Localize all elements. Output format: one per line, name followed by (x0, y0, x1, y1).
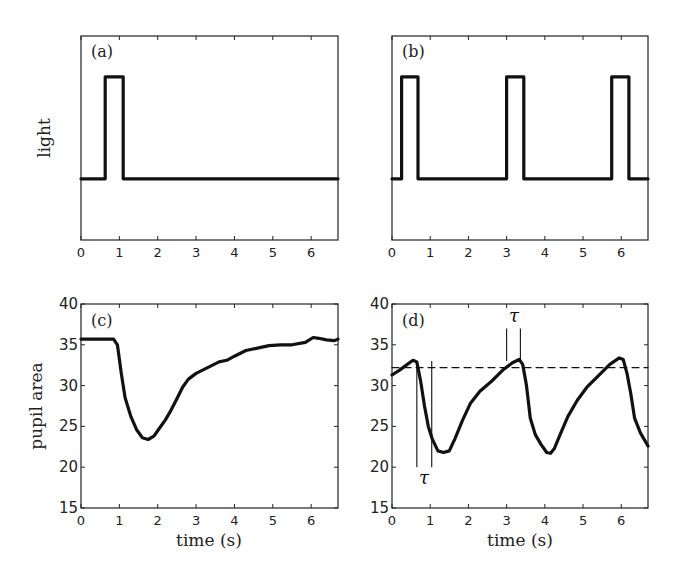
x-tick-label: 3 (192, 245, 200, 260)
y-tick-label: 20 (370, 458, 389, 476)
x-tick-label: 1 (115, 245, 123, 260)
x-tick-label: 6 (617, 245, 625, 260)
x-tick-label: 4 (541, 245, 549, 260)
x-tick-label: 6 (307, 245, 315, 260)
x-tick-label: 1 (115, 513, 123, 528)
x-tick-label: 2 (154, 245, 162, 260)
x-tick-label: 5 (269, 513, 277, 528)
y-tick-label: 15 (370, 499, 389, 517)
y-tick-label: 20 (59, 458, 78, 476)
panel-label-c: (c) (91, 311, 112, 330)
plot-frame (81, 36, 338, 240)
x-tick-label: 3 (502, 245, 510, 260)
x-tick-label: 3 (502, 513, 510, 528)
x-tick-label: 0 (388, 245, 396, 260)
panel-a-light-single-pulse: 0123456 (77, 36, 338, 260)
x-tick-label: 1 (426, 245, 434, 260)
plot-frame (392, 36, 648, 240)
y-tick-label: 25 (370, 417, 389, 435)
x-tick-label: 6 (617, 513, 625, 528)
panel-label-a: (a) (91, 42, 113, 61)
x-axis-label-c: time (s) (176, 530, 242, 550)
x-tick-label: 5 (269, 245, 277, 260)
y-tick-label: 25 (59, 417, 78, 435)
tau-annotation-upper: τ (509, 305, 520, 326)
x-tick-label: 4 (230, 245, 238, 260)
data-line (81, 77, 338, 179)
x-tick-label: 6 (307, 513, 315, 528)
x-tick-label: 1 (426, 513, 434, 528)
x-axis-label-d: time (s) (487, 530, 553, 550)
y-tick-label: 40 (370, 295, 389, 313)
plot-frame (81, 304, 338, 508)
x-tick-label: 5 (579, 245, 587, 260)
y-tick-label: 30 (59, 377, 78, 395)
y-tick-label: 35 (370, 336, 389, 354)
data-line (392, 358, 648, 453)
y-axis-label-light: light (34, 118, 54, 158)
panel-b-light-periodic-pulses: 0123456 (388, 36, 648, 260)
figure: 0123456 0123456 0123456152025303540 0123… (0, 0, 677, 575)
x-tick-label: 3 (192, 513, 200, 528)
y-tick-label: 35 (59, 336, 78, 354)
data-line (81, 338, 338, 440)
panel-label-d: (d) (402, 311, 425, 330)
y-tick-label: 15 (59, 499, 78, 517)
x-tick-label: 2 (154, 513, 162, 528)
x-tick-label: 5 (579, 513, 587, 528)
x-tick-label: 2 (464, 513, 472, 528)
y-axis-label-pupil-area: pupil area (26, 362, 46, 449)
data-line (392, 77, 648, 179)
tau-annotation-lower: τ (419, 467, 430, 488)
x-tick-label: 4 (541, 513, 549, 528)
panel-label-b: (b) (402, 42, 425, 61)
x-tick-label: 2 (464, 245, 472, 260)
y-tick-label: 30 (370, 377, 389, 395)
x-tick-label: 4 (230, 513, 238, 528)
x-tick-label: 0 (77, 245, 85, 260)
x-tick-label: 0 (77, 513, 85, 528)
y-tick-label: 40 (59, 295, 78, 313)
x-tick-label: 0 (388, 513, 396, 528)
